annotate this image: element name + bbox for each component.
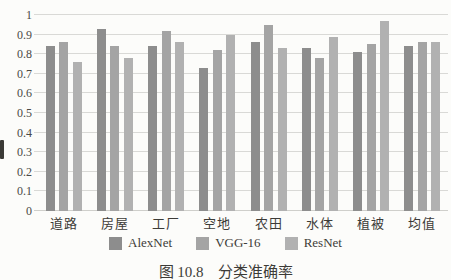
x-tick-label: 空地	[192, 216, 243, 232]
x-tick-label: 均值	[397, 216, 448, 232]
bar-resnet-0	[73, 62, 82, 211]
bar-alexnet-3	[199, 68, 208, 211]
bar-vgg-16-0	[59, 42, 68, 211]
y-tick-label: 0.5	[0, 106, 32, 120]
plot-area	[38, 15, 448, 211]
x-tick-label: 工厂	[141, 216, 192, 232]
y-tick-label: 0.8	[0, 47, 32, 61]
x-tick-label: 农田	[243, 216, 294, 232]
figure-caption-title: 分类准确率	[218, 264, 293, 280]
bar-vgg-16-2	[162, 31, 171, 211]
bar-vgg-16-5	[315, 58, 324, 211]
figure-10-8: 道路房屋工厂空地农田水体植被均值 AlexNetVGG-16ResNet 图 1…	[0, 0, 451, 280]
y-tick-label: 0.7	[0, 67, 32, 81]
bar-resnet-2	[175, 42, 184, 211]
y-tick-label: 0.1	[0, 184, 32, 198]
bar-resnet-4	[278, 48, 287, 211]
x-tick-label: 道路	[38, 216, 89, 232]
legend: AlexNetVGG-16ResNet	[0, 233, 451, 253]
bar-resnet-6	[380, 21, 389, 211]
legend-item-vgg-16: VGG-16	[196, 235, 261, 251]
bar-vgg-16-7	[418, 42, 427, 211]
bar-alexnet-6	[353, 52, 362, 211]
y-tick-label: 0.4	[0, 126, 32, 140]
bar-vgg-16-6	[367, 44, 376, 211]
legend-item-resnet: ResNet	[285, 235, 342, 251]
bar-resnet-1	[124, 58, 133, 211]
figure-caption: 图 10.8分类准确率	[0, 263, 451, 280]
figure-caption-label: 图 10.8	[159, 264, 204, 280]
bar-alexnet-4	[251, 42, 260, 211]
bar-vgg-16-1	[110, 46, 119, 211]
legend-swatch-icon	[109, 237, 122, 250]
legend-label: AlexNet	[128, 235, 172, 251]
y-tick-label: 1	[0, 8, 32, 22]
y-tick-label: 0.3	[0, 145, 32, 159]
y-tick-label: 0.6	[0, 86, 32, 100]
bar-resnet-3	[226, 35, 235, 211]
legend-swatch-icon	[196, 237, 209, 250]
bar-alexnet-2	[148, 46, 157, 211]
bar-alexnet-1	[97, 29, 106, 211]
legend-label: VGG-16	[215, 235, 261, 251]
y-tick-label: 0.9	[0, 28, 32, 42]
bar-vgg-16-3	[213, 50, 222, 211]
x-tick-label: 植被	[346, 216, 397, 232]
legend-swatch-icon	[285, 237, 298, 250]
bar-vgg-16-4	[264, 25, 273, 211]
bar-alexnet-7	[404, 46, 413, 211]
y-tick-label: 0	[0, 204, 32, 218]
bar-resnet-5	[329, 37, 338, 211]
y-tick-label: 0.2	[0, 165, 32, 179]
gridline	[34, 14, 448, 15]
legend-item-alexnet: AlexNet	[109, 235, 172, 251]
bar-alexnet-0	[46, 46, 55, 211]
x-axis: 道路房屋工厂空地农田水体植被均值	[38, 216, 448, 232]
legend-label: ResNet	[304, 235, 342, 251]
x-tick-label: 水体	[294, 216, 345, 232]
bar-resnet-7	[431, 42, 440, 211]
bar-alexnet-5	[302, 48, 311, 211]
x-tick-label: 房屋	[89, 216, 140, 232]
